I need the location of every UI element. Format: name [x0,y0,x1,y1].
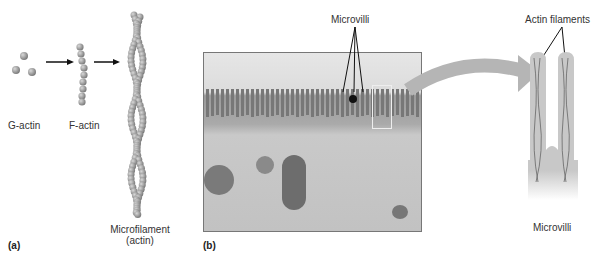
g-actin-label: G-actin [8,120,40,131]
microvilli-callout-label: Microvilli [331,14,369,25]
microvilli-schematic [528,50,588,210]
microfilament-double-helix [128,12,147,218]
arrow-icon [46,59,74,65]
microfilament-label: Microfilament (actin) [108,224,172,246]
panel-b-label: (b) [203,240,216,251]
microvilli-caption: Microvilli [533,222,571,233]
panel-a-label: (a) [8,240,20,251]
actin-filaments-label: Actin filaments [525,14,590,25]
f-actin-label: F-actin [69,120,100,131]
g-actin-monomers [12,52,36,76]
curved-arrow-icon [408,66,520,91]
f-actin-strand [76,43,87,105]
arrow-icon [94,59,120,65]
